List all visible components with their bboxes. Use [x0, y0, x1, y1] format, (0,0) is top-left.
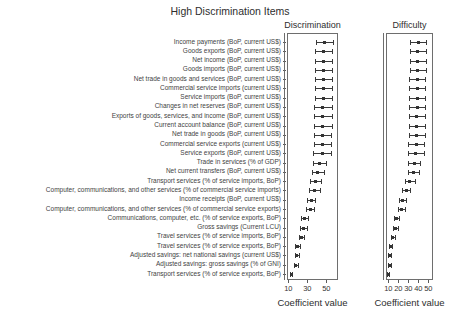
row-label: Exports of goods, services, and income (… — [0, 112, 281, 120]
data-point — [322, 69, 325, 72]
data-point — [321, 152, 324, 155]
error-bar-right-cap — [332, 59, 333, 64]
error-bar-left-cap — [314, 124, 315, 129]
row-label: Gross savings (Current LCU) — [0, 223, 281, 231]
error-bar-right-cap — [426, 68, 427, 73]
error-bar-left-cap — [309, 188, 310, 193]
row-label: Adjusted savings: net national savings (… — [0, 251, 281, 259]
data-point — [412, 171, 415, 174]
error-bar-left-cap — [315, 49, 316, 54]
error-bar-right-cap — [326, 161, 327, 166]
row-label: Net current transfers (BoP, current US$) — [0, 167, 281, 175]
data-point — [388, 264, 391, 267]
row-label: Income payments (BoP, current US$) — [0, 38, 281, 46]
chart-title: High Discrimination Items — [0, 5, 460, 17]
error-bar-right-cap — [425, 124, 426, 129]
error-bar-right-cap — [419, 170, 420, 175]
error-bar-left-cap — [410, 40, 411, 45]
data-point — [321, 125, 324, 128]
error-bar-right-cap — [331, 142, 332, 147]
error-bar-right-cap — [331, 151, 332, 156]
error-bar-left-cap — [410, 59, 411, 64]
data-point — [416, 78, 419, 81]
row-label: Travel services (% of service exports, B… — [0, 242, 281, 250]
data-point — [321, 115, 324, 118]
error-bar-left-cap — [312, 170, 313, 175]
data-point — [416, 50, 419, 53]
data-point — [318, 162, 321, 165]
error-bar-right-cap — [425, 77, 426, 82]
error-bar-left-cap — [409, 105, 410, 110]
x-axis-tick — [418, 280, 419, 283]
error-bar-left-cap — [410, 68, 411, 73]
error-bar-right-cap — [320, 188, 321, 193]
data-point — [322, 50, 325, 53]
data-point — [313, 189, 316, 192]
error-bar-right-cap — [391, 263, 392, 268]
row-label: Income receipts (BoP, current US$) — [0, 195, 281, 203]
error-bar-right-cap — [391, 253, 392, 258]
data-point — [401, 199, 404, 202]
error-bar-left-cap — [408, 161, 409, 166]
data-point — [300, 236, 303, 239]
error-bar-right-cap — [332, 68, 333, 73]
data-point — [290, 273, 293, 276]
data-point — [303, 217, 306, 220]
error-bar-left-cap — [310, 179, 311, 184]
panel-header-difficulty: Difficulty — [376, 20, 443, 30]
error-bar-right-cap — [332, 77, 333, 82]
error-bar-left-cap — [409, 124, 410, 129]
error-bar-left-cap — [408, 170, 409, 175]
data-point — [400, 208, 403, 211]
error-bar-left-cap — [405, 179, 406, 184]
x-axis-tick-label: 30 — [297, 284, 317, 293]
row-label: Service exports (BoP, current US$) — [0, 149, 281, 157]
data-point — [387, 273, 390, 276]
error-bar-left-cap — [315, 68, 316, 73]
error-bar-left-cap — [315, 77, 316, 82]
x-axis-tick-label: 10 — [278, 284, 298, 293]
data-point — [322, 78, 325, 81]
error-bar-left-cap — [314, 105, 315, 110]
error-bar-right-cap — [426, 59, 427, 64]
error-bar-left-cap — [313, 161, 314, 166]
data-point — [316, 171, 319, 174]
data-point — [389, 245, 392, 248]
row-label: Current account balance (BoP, current US… — [0, 121, 281, 129]
error-bar-left-cap — [402, 188, 403, 193]
data-point — [416, 87, 419, 90]
row-label: Trade in services (% of GDP) — [0, 158, 281, 166]
data-point — [294, 264, 297, 267]
data-point — [314, 180, 317, 183]
row-label: Computer, communications, and other serv… — [0, 205, 281, 213]
data-point — [415, 134, 418, 137]
error-bar-right-cap — [406, 198, 407, 203]
data-point — [322, 97, 325, 100]
row-label: Commercial service imports (current US$) — [0, 84, 281, 92]
x-axis-tick — [408, 280, 409, 283]
error-bar-right-cap — [398, 226, 399, 231]
error-bar-right-cap — [399, 216, 400, 221]
error-bar-right-cap — [331, 133, 332, 138]
error-bar-right-cap — [426, 40, 427, 45]
error-bar-right-cap — [314, 207, 315, 212]
row-label: Adjusted savings: gross savings (% of GN… — [0, 260, 281, 268]
error-bar-right-cap — [307, 226, 308, 231]
error-bar-left-cap — [316, 40, 317, 45]
x-axis-tick — [398, 280, 399, 283]
data-point — [321, 106, 324, 109]
x-axis-title-difficulty: Coefficient value — [358, 297, 460, 308]
x-axis-tick — [326, 280, 327, 283]
data-point — [394, 227, 397, 230]
error-bar-left-cap — [315, 59, 316, 64]
error-bar-left-cap — [314, 114, 315, 119]
error-bar-right-cap — [395, 235, 396, 240]
error-bar-right-cap — [332, 105, 333, 110]
error-bar-left-cap — [306, 207, 307, 212]
error-bar-left-cap — [314, 142, 315, 147]
error-bar-right-cap — [299, 253, 300, 258]
data-point — [416, 69, 419, 72]
data-point — [415, 143, 418, 146]
data-point — [322, 87, 325, 90]
error-bar-right-cap — [333, 40, 334, 45]
